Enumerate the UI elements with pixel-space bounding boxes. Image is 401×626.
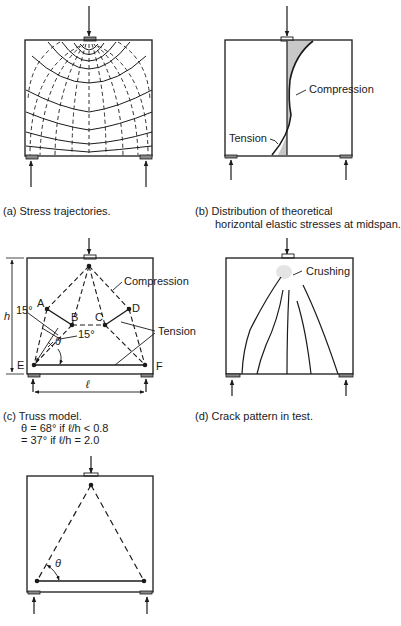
support-plate-right (339, 374, 353, 377)
crushing-zone (276, 265, 292, 279)
angle-construction (28, 313, 77, 364)
height-label: h (4, 310, 10, 322)
tension-leader (270, 139, 278, 144)
compression-leader (113, 282, 122, 290)
panel-e-simple-truss (27, 456, 153, 614)
caption-d: (d) Crack pattern in test. (195, 410, 313, 423)
caption-c-line3: = 37° if ℓ/h = 2.0 (21, 434, 99, 447)
support-plate-left (26, 155, 38, 159)
node-label-e: E (17, 359, 24, 371)
node-label-f: F (156, 360, 163, 372)
caption-b-line1: (b) Distribution of theoretical (195, 205, 333, 218)
theta-label-c: θ (55, 335, 61, 347)
label-compression-b: Compression (309, 83, 374, 95)
deep-beam-outline (25, 40, 152, 156)
label-tension-c: Tension (158, 325, 196, 337)
theta-label-e: θ (55, 557, 61, 569)
support-plate-right (140, 155, 152, 159)
compression-leader (296, 90, 306, 95)
node-label-d: D (132, 302, 140, 314)
span-label: ℓ (85, 378, 90, 390)
angle-label-mid: 15° (78, 328, 95, 340)
cracks (242, 277, 338, 374)
label-compression-c: Compression (124, 275, 189, 287)
label-crushing: Crushing (306, 265, 350, 277)
caption-b-line2: horizontal elastic stresses at midspan. (215, 218, 401, 231)
support-plate-right (140, 591, 152, 594)
node-label-a: A (37, 297, 45, 309)
caption-a: (a) Stress trajectories. (3, 205, 111, 218)
tension-trajectories (28, 42, 150, 155)
label-tension-b: Tension (229, 132, 267, 144)
node-label-c: C (95, 311, 103, 323)
support-plate-left (226, 374, 240, 377)
support-plate-right (141, 374, 153, 377)
support-plate-left (225, 155, 237, 158)
compression-struts (37, 485, 144, 581)
support-plate-right (340, 155, 352, 158)
angle-label-top: 15° (16, 304, 33, 316)
panel-a-stress-trajectories (25, 6, 152, 187)
panel-d-crack-pattern (226, 238, 353, 396)
node-label-b: B (71, 311, 78, 323)
crushing-leader (293, 271, 302, 275)
tension-leader (121, 322, 155, 331)
deep-beam-outline (27, 476, 153, 592)
support-plate-left (28, 591, 40, 594)
support-plate-left (28, 374, 40, 377)
tension-leader (115, 333, 155, 365)
